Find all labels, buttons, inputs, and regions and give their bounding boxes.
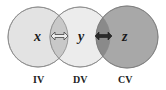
variable-y: y (76, 29, 85, 44)
label-cv: CV (118, 74, 133, 85)
venn-diagram: x y z IV DV CV (0, 0, 166, 90)
label-dv: DV (73, 74, 88, 85)
label-iv: IV (33, 74, 45, 85)
variable-x: x (33, 29, 41, 44)
variable-z: z (121, 29, 128, 44)
